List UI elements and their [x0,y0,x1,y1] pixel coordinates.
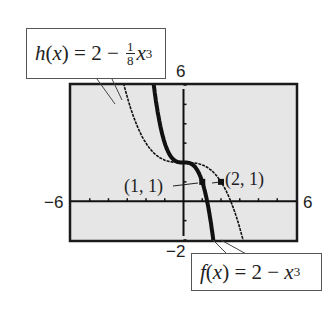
xmin-label: −6 [44,193,63,212]
f-fn-name: f [200,260,206,285]
h-function-callout: h(x) = 2 − 18x3 [26,28,166,79]
point-label-2-1: (2, 1) [225,169,264,190]
ymax-label: 6 [176,62,185,81]
f-var: x [213,260,222,285]
h-equals: = 2 − [69,41,124,66]
point-label-1-1: (1, 1) [124,176,163,197]
h-exp: 3 [146,46,153,62]
h-fn-name: h [35,41,46,66]
h-base: x [137,41,146,66]
f-exp: 3 [294,264,301,280]
f-base: x [284,260,293,285]
xmax-label: 6 [303,193,312,212]
h-var: x [53,41,62,66]
h-fraction: 18 [126,40,135,67]
point-marker-1-1 [199,179,205,185]
f-function-callout: f(x) = 2 − x3 [191,253,322,291]
ymin-label: −2 [166,242,185,261]
f-equals: = 2 − [229,260,284,285]
